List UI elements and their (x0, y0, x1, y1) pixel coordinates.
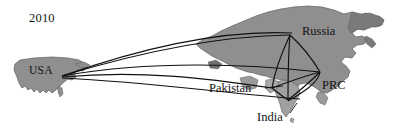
edge-usa-russia-alt (62, 33, 292, 76)
edge-russia-india (288, 35, 290, 100)
edge-india-pakistan (272, 88, 288, 100)
country-label-russia: Russia (302, 25, 335, 38)
country-label-prc: PRC (322, 79, 346, 92)
edge-usa-india (62, 78, 300, 99)
country-label-pakistan: Pakistan (209, 82, 251, 95)
figure-canvas: 2010 USA Russia PRC Pakistan India (0, 0, 406, 134)
year-label: 2010 (29, 12, 55, 25)
edge-russia-pakistan (272, 35, 290, 88)
edge-russia-prc (290, 35, 320, 72)
country-label-india: India (257, 111, 283, 124)
edge-usa-russia (62, 35, 290, 76)
leader-line-group (265, 86, 297, 113)
edge-group (62, 33, 320, 101)
network-links-layer (0, 0, 406, 134)
edge-prc-pakistan (272, 72, 320, 88)
country-label-usa: USA (29, 65, 53, 77)
leader-line-india (290, 103, 297, 113)
